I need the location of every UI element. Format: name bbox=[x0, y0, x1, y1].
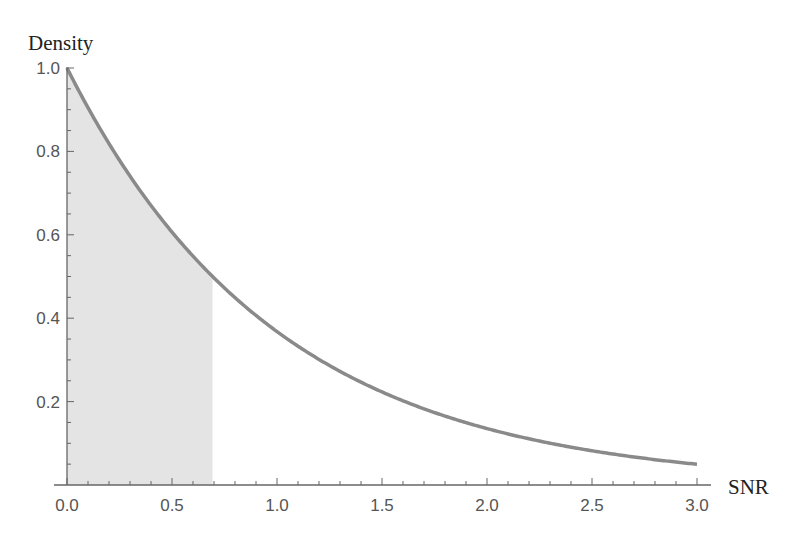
shaded-area bbox=[67, 68, 213, 485]
x-tick-label: 0.0 bbox=[55, 496, 79, 515]
x-tick-label: 0.5 bbox=[160, 496, 184, 515]
y-tick-label: 0.8 bbox=[36, 142, 60, 161]
y-tick-label: 1.0 bbox=[36, 59, 60, 78]
x-axis-title: SNR bbox=[728, 475, 769, 499]
x-tick-label: 2.5 bbox=[580, 496, 604, 515]
x-tick-label: 1.5 bbox=[370, 496, 394, 515]
y-tick-label: 0.2 bbox=[36, 393, 60, 412]
x-tick-label: 2.0 bbox=[475, 496, 499, 515]
x-tick-label: 3.0 bbox=[685, 496, 709, 515]
y-tick-label: 0.4 bbox=[36, 309, 60, 328]
y-axis-title: Density bbox=[28, 31, 94, 55]
x-tick-label: 1.0 bbox=[265, 496, 289, 515]
density-chart: 0.00.51.01.52.02.53.0 0.20.40.60.81.0 De… bbox=[0, 0, 800, 541]
plot-area bbox=[67, 68, 697, 485]
y-tick-label: 0.6 bbox=[36, 226, 60, 245]
